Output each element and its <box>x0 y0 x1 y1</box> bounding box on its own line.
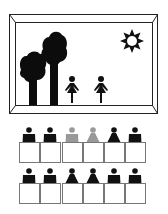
student-boy-icon <box>129 168 142 185</box>
desk <box>105 143 125 163</box>
desk <box>84 184 104 204</box>
student-boy-icon <box>44 127 57 144</box>
student-girl-icon <box>107 127 121 144</box>
student-boy-icon <box>23 168 36 185</box>
desk <box>41 143 61 163</box>
student-boy-icon <box>44 168 57 185</box>
student-boy-icon <box>129 127 142 144</box>
sun-icon <box>120 29 144 53</box>
tree-right-icon <box>41 32 67 105</box>
desk <box>63 143 83 163</box>
student-boy-icon <box>23 127 36 144</box>
desk <box>105 184 125 204</box>
student-girl-icon <box>65 168 79 185</box>
trees <box>20 32 67 105</box>
desk <box>63 184 83 204</box>
desk <box>20 143 40 163</box>
tree-left-icon <box>20 52 46 105</box>
girl-icon <box>94 76 108 103</box>
desk <box>84 143 104 163</box>
desk <box>126 143 146 163</box>
girl-icon <box>65 76 79 103</box>
student-boy-icon <box>66 127 79 144</box>
student-girl-icon <box>86 127 100 144</box>
desk <box>126 184 146 204</box>
desk-row-2 <box>20 168 146 203</box>
desk-row-1 <box>20 127 146 162</box>
desk <box>41 184 61 204</box>
student-girl-icon <box>86 168 100 185</box>
classroom-illustration <box>0 0 168 214</box>
student-boy-icon <box>108 168 121 185</box>
desk <box>20 184 40 204</box>
